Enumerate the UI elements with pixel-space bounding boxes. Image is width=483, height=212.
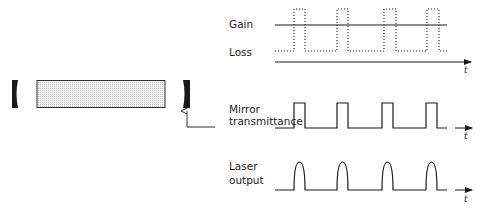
right-mirror-icon bbox=[183, 80, 190, 108]
mirror-label-line2: transmittance bbox=[229, 115, 303, 127]
gain-label: Gain bbox=[229, 18, 253, 30]
gain-loss-trace bbox=[275, 9, 471, 62]
time-label: t bbox=[464, 194, 468, 204]
laser-label-line2: output bbox=[229, 174, 264, 186]
loss-label: Loss bbox=[229, 46, 252, 58]
left-mirror-icon bbox=[12, 80, 18, 108]
mirror-label-line1: Mirror bbox=[229, 103, 260, 115]
pointer-arrow bbox=[187, 111, 215, 127]
time-label: t bbox=[464, 131, 468, 141]
gain-medium bbox=[37, 81, 165, 108]
q-switch-diagram: Gain Loss t Mirror transmittance t Laser… bbox=[0, 0, 483, 212]
laser-label-line1: Laser bbox=[229, 160, 258, 172]
laser-pulse-line bbox=[275, 162, 447, 190]
mirror-transmittance-trace bbox=[275, 103, 472, 128]
loss-dotted-line bbox=[275, 9, 447, 51]
laser-output-trace bbox=[275, 162, 472, 190]
time-label: t bbox=[464, 65, 468, 75]
resonator bbox=[12, 80, 215, 127]
